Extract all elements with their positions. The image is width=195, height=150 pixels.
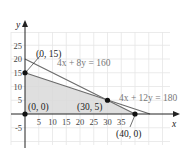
x-tick-labels: 5 10 15 20 25 30 35 [37, 117, 126, 127]
y-tick: 10 [14, 82, 23, 92]
x-tick: 10 [48, 117, 57, 127]
equation-label-1: 4x + 8y = 160 [57, 58, 111, 68]
x-tick: 30 [103, 117, 112, 127]
y-tick: -5 [15, 123, 22, 133]
point-label-0-15: (0, 15) [36, 49, 61, 60]
y-tick: 20 [14, 54, 23, 64]
x-axis-arrow-icon [173, 111, 180, 117]
x-axis-label: x [171, 119, 177, 129]
x-tick: 5 [37, 117, 41, 127]
y-tick-labels: 25 20 15 10 5 -5 [14, 41, 23, 134]
vertex-point-0-0 [22, 111, 27, 116]
y-tick: 15 [14, 68, 23, 78]
y-axis-arrow-icon [22, 20, 28, 27]
equation-label-2: 4x + 12y = 180 [119, 93, 177, 103]
point-label-30-5: (30, 5) [77, 102, 102, 113]
x-tick: 20 [76, 117, 85, 127]
x-tick: 25 [90, 117, 99, 127]
vertex-point-0-15 [22, 70, 27, 75]
leader-line-40-0 [130, 115, 135, 127]
feasible-region-chart: x y 5 10 15 20 25 30 35 25 20 15 10 5 -5… [0, 0, 195, 150]
point-label-40-0: (40, 0) [116, 129, 141, 140]
x-tick: 15 [62, 117, 71, 127]
vertex-point-40-0 [132, 111, 137, 116]
y-tick: 5 [18, 95, 22, 105]
y-tick: 25 [14, 41, 23, 51]
y-axis-label: y [15, 20, 21, 30]
vertex-point-30-5 [105, 98, 110, 103]
point-label-0-0: (0, 0) [28, 102, 49, 113]
x-tick: 35 [117, 117, 126, 127]
